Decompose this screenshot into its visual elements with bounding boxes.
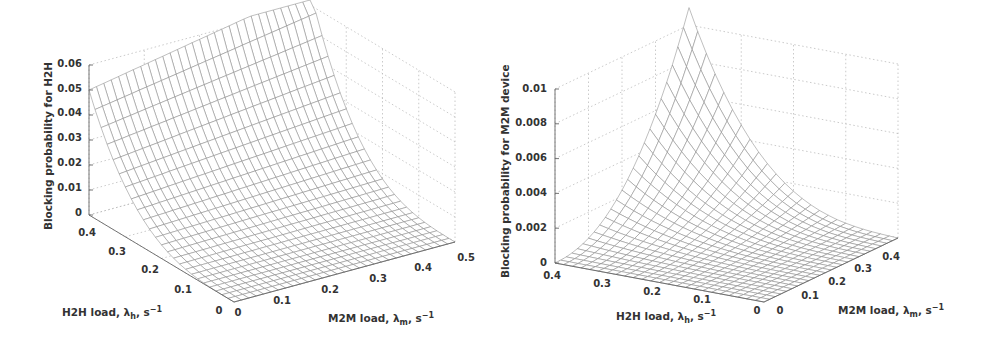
right-surface-plot: Blocking probability for M2M device 0.01… <box>499 8 945 325</box>
x-tick: 0.3 <box>593 278 611 289</box>
z-tick: 0.004 <box>515 187 547 198</box>
z-tick: 0.01 <box>57 182 82 193</box>
y-tick: 0.4 <box>414 262 432 273</box>
z-tick: 0.05 <box>57 83 82 94</box>
z-tick: 0 <box>540 257 547 268</box>
y-tick: 0 <box>235 307 242 318</box>
left-x-axis-label: H2H load, λh, s−1 <box>62 305 163 321</box>
left-y-axis-label: M2M load, λm, s−1 <box>328 311 435 327</box>
x-tick: 0.1 <box>174 284 192 295</box>
z-tick: 0.01 <box>522 83 547 94</box>
x-tick: 0 <box>754 305 761 316</box>
left-surface-plot: Blocking probability for H2H 0.06 0.05 0… <box>42 0 475 327</box>
x-tick: 0.3 <box>108 246 126 257</box>
z-tick: 0.008 <box>515 117 547 128</box>
right-y-axis-label: M2M load, λm, s−1 <box>838 303 945 319</box>
z-tick: 0.002 <box>515 222 547 233</box>
right-z-ticks: 0.01 0.008 0.006 0.004 0.002 0 <box>515 83 547 268</box>
y-tick: 0.3 <box>854 263 872 274</box>
right-z-axis-label: Blocking probability for M2M device <box>499 64 511 278</box>
z-tick: 0.006 <box>515 152 547 163</box>
y-tick: 0.1 <box>273 295 291 306</box>
z-tick: 0.06 <box>57 58 82 69</box>
z-tick: 0.02 <box>57 157 82 168</box>
z-tick: 0.03 <box>57 132 82 143</box>
left-z-ticks: 0.06 0.05 0.04 0.03 0.02 0.01 0 <box>57 58 82 218</box>
right-x-axis-label: H2H load, λh, s−1 <box>616 309 717 325</box>
z-tick: 0.04 <box>57 107 82 118</box>
x-tick: 0 <box>216 305 223 316</box>
x-tick: 0.4 <box>543 270 561 281</box>
x-tick: 0.1 <box>693 294 711 305</box>
figure: Blocking probability for H2H 0.06 0.05 0… <box>0 0 988 346</box>
x-tick: 0.4 <box>78 227 96 238</box>
left-z-axis-label: Blocking probability for H2H <box>42 62 54 230</box>
y-tick: 0.2 <box>828 276 846 287</box>
z-tick: 0 <box>75 207 82 218</box>
y-tick: 0.3 <box>369 273 387 284</box>
right-surface-mesh <box>555 8 898 302</box>
x-tick: 0.2 <box>643 286 661 297</box>
y-tick: 0 <box>777 305 784 316</box>
y-tick: 0.4 <box>882 251 900 262</box>
y-tick: 0.1 <box>801 290 819 301</box>
y-tick: 0.5 <box>457 252 475 263</box>
x-tick: 0.2 <box>141 264 159 275</box>
y-tick: 0.2 <box>321 284 339 295</box>
